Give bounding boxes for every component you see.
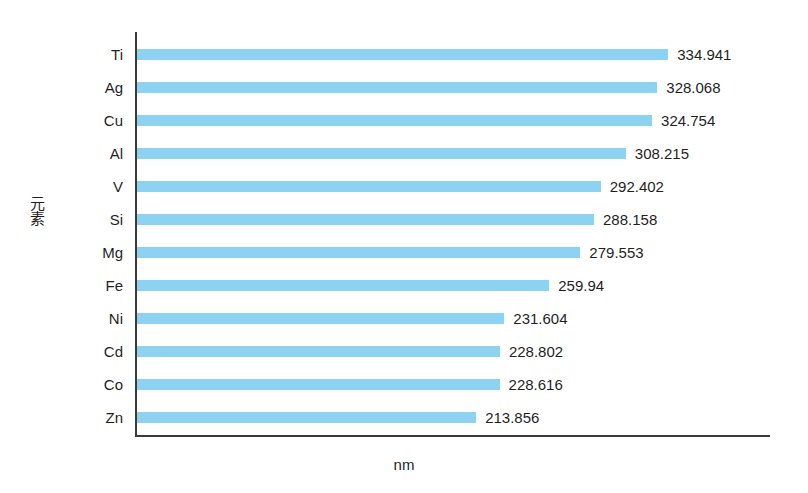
bar-row: Ti334.941	[135, 38, 770, 71]
bar	[137, 247, 580, 258]
value-label: 279.553	[589, 245, 643, 260]
bar	[137, 313, 504, 324]
value-label: 292.402	[610, 179, 664, 194]
category-label: Ag	[105, 71, 123, 104]
bar	[137, 346, 500, 357]
bar-row: Cd228.802	[135, 335, 770, 368]
bar	[137, 379, 500, 390]
value-label: 328.068	[666, 80, 720, 95]
bar	[137, 280, 549, 291]
category-label: Si	[110, 203, 123, 236]
bar-row: Fe259.94	[135, 269, 770, 302]
category-label: Fe	[105, 269, 123, 302]
bar	[137, 82, 657, 93]
plot-area: Ti334.941Ag328.068Cu324.754Al308.215V292…	[135, 32, 770, 437]
bar	[137, 115, 652, 126]
bar-row: Mg279.553	[135, 236, 770, 269]
value-label: 213.856	[485, 410, 539, 425]
category-label: Zn	[105, 401, 123, 434]
bar-row: Ag328.068	[135, 71, 770, 104]
x-axis-title: nm	[0, 456, 808, 473]
bar-row: Ni231.604	[135, 302, 770, 335]
category-label: Al	[110, 137, 123, 170]
category-label: Co	[104, 368, 123, 401]
bar-row: Co228.616	[135, 368, 770, 401]
bar	[137, 412, 476, 423]
value-label: 334.941	[677, 47, 731, 62]
value-label: 231.604	[513, 311, 567, 326]
bar-row: Al308.215	[135, 137, 770, 170]
bar-row: Zn213.856	[135, 401, 770, 434]
bar-row: Si288.158	[135, 203, 770, 236]
value-label: 228.616	[509, 377, 563, 392]
bar-row: V292.402	[135, 170, 770, 203]
bar-row: Cu324.754	[135, 104, 770, 137]
category-label: Cd	[104, 335, 123, 368]
category-label: Ni	[109, 302, 123, 335]
category-label: Mg	[102, 236, 123, 269]
value-label: 324.754	[661, 113, 715, 128]
value-label: 228.802	[509, 344, 563, 359]
value-label: 288.158	[603, 212, 657, 227]
y-axis-title: 元素	[22, 196, 44, 226]
value-label: 308.215	[635, 146, 689, 161]
bar	[137, 148, 626, 159]
bar-chart: 元素 Ti334.941Ag328.068Cu324.754Al308.215V…	[0, 0, 808, 493]
category-label: Ti	[111, 38, 123, 71]
value-label: 259.94	[558, 278, 604, 293]
category-label: Cu	[104, 104, 123, 137]
bar	[137, 181, 601, 192]
bar	[137, 214, 594, 225]
x-axis-line	[135, 435, 770, 437]
bar	[137, 49, 668, 60]
category-label: V	[113, 170, 123, 203]
